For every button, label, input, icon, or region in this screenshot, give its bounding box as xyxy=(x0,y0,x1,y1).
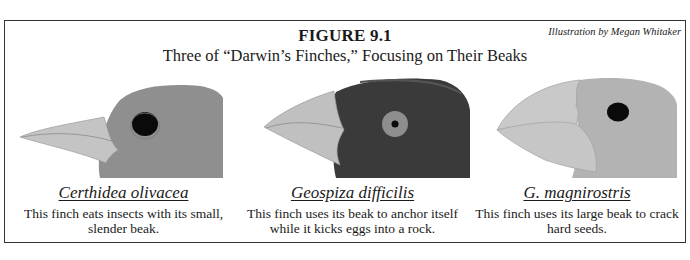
finch-3-eye xyxy=(607,103,629,122)
finch-3-beak-lower xyxy=(497,122,596,172)
species-name-certhidea-olivacea: Certhidea olivacea xyxy=(16,183,231,203)
finch-certhidea-olivacea-illustration xyxy=(20,85,223,178)
finch-2-beak xyxy=(264,91,344,165)
finch-geospiza-difficilis-illustration xyxy=(264,79,470,179)
finch-g-magnirostris-illustration xyxy=(497,78,677,178)
finch-2-pupil xyxy=(392,121,399,128)
finch-1-head xyxy=(99,85,223,178)
description-certhidea-olivacea: This finch eats insects with its small, … xyxy=(16,206,231,236)
description-geospiza-difficilis: This finch uses its beak to anchor itsel… xyxy=(245,206,460,236)
finch-1-beak xyxy=(20,117,118,163)
species-name-g-magnirostris: G. magnirostris xyxy=(472,183,682,203)
description-g-magnirostris: This finch uses its large beak to crack … xyxy=(472,206,682,236)
species-name-geospiza-difficilis: Geospiza difficilis xyxy=(245,183,460,203)
